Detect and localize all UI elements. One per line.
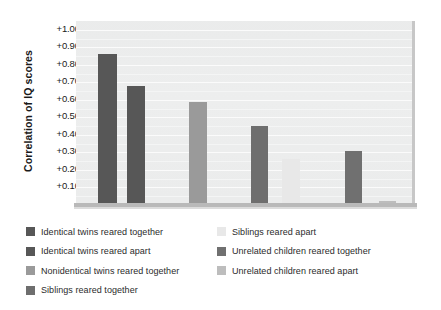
legend-item: Siblings reared together — [26, 283, 211, 298]
iq-correlation-bar-chart: Correlation of IQ scores +1.00+0.90+0.80… — [0, 0, 441, 310]
legend-swatch-icon — [26, 247, 35, 256]
legend-swatch-icon — [26, 286, 35, 295]
legend-item: Identical twins reared together — [26, 224, 211, 239]
x-axis-baseline-shadow — [74, 207, 417, 209]
y-tick-label: +0.60 — [40, 94, 80, 104]
legend-item: Nonidentical twins reared together — [26, 263, 211, 278]
legend-swatch-icon — [26, 266, 35, 275]
legend-label: Nonidentical twins reared together — [41, 266, 179, 276]
legend-swatch-icon — [26, 227, 35, 236]
y-tick-label: +0.10 — [40, 181, 80, 191]
gridline-minor — [76, 74, 415, 75]
legend-column-left: Identical twins reared togetherIdentical… — [26, 224, 211, 302]
y-tick-label: +0.80 — [40, 59, 80, 69]
gridline-minor — [76, 56, 415, 57]
y-tick-label: +0.50 — [40, 111, 80, 121]
legend-label: Unrelated children reared apart — [232, 266, 358, 276]
y-tick-label: +0.30 — [40, 146, 80, 156]
y-axis-tick-labels: +1.00+0.90+0.80+0.70+0.60+0.50+0.40+0.30… — [40, 20, 80, 200]
legend-label: Identical twins reared apart — [41, 246, 150, 256]
bar — [251, 126, 268, 205]
y-tick-label: +1.00 — [40, 24, 80, 34]
gridline-minor — [76, 39, 415, 40]
legend-label: Siblings reared together — [41, 285, 138, 295]
legend-column-right: Siblings reared apartUnrelated children … — [217, 224, 432, 283]
legend-swatch-icon — [217, 227, 226, 236]
y-axis-title: Correlation of IQ scores — [22, 21, 34, 201]
y-tick-label: +0.90 — [40, 41, 80, 51]
bar — [189, 102, 207, 205]
legend-label: Siblings reared apart — [232, 227, 316, 237]
legend-swatch-icon — [217, 247, 226, 256]
plot-right-edge — [412, 21, 415, 205]
y-tick-label: +0.70 — [40, 76, 80, 86]
bar — [127, 86, 145, 205]
bar — [345, 151, 362, 205]
legend-item: Siblings reared apart — [217, 224, 432, 239]
legend-item: Unrelated children reared together — [217, 244, 432, 259]
bar — [282, 159, 300, 205]
bar — [98, 54, 117, 205]
gridline — [76, 47, 415, 48]
legend-label: Unrelated children reared together — [232, 246, 371, 256]
legend-item: Unrelated children reared apart — [217, 263, 432, 278]
y-tick-label: +0.40 — [40, 129, 80, 139]
y-tick-label: +0.20 — [40, 164, 80, 174]
gridline — [76, 30, 415, 31]
gridline — [76, 82, 415, 83]
legend-swatch-icon — [217, 266, 226, 275]
legend: Identical twins reared togetherIdentical… — [26, 224, 426, 304]
legend-item: Identical twins reared apart — [26, 244, 211, 259]
legend-label: Identical twins reared together — [41, 227, 163, 237]
gridline — [76, 65, 415, 66]
plot-area — [76, 21, 415, 205]
